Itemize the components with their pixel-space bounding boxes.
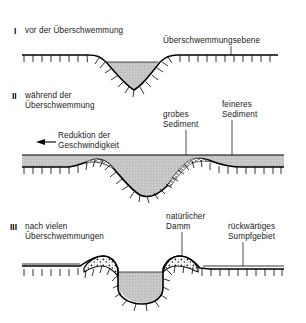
panel-3-cross-section <box>22 232 284 311</box>
panel-2-water-body <box>22 155 284 197</box>
flow-direction-arrow <box>36 139 56 145</box>
panel-2-cross-section <box>22 120 284 203</box>
floodplain-evolution-diagram <box>0 0 306 323</box>
panel-1-cross-section <box>22 46 278 97</box>
